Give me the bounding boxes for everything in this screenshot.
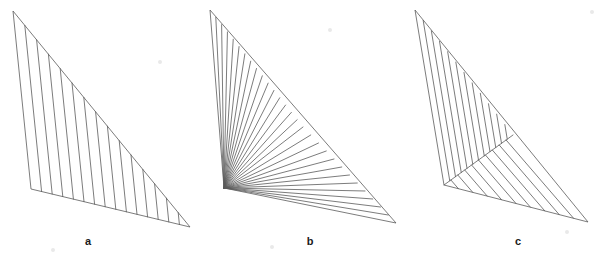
region-b-upper-hatch-ray-13	[224, 105, 286, 188]
triangle-c-outline	[415, 10, 588, 222]
figure-container: abc	[0, 0, 601, 257]
region-c-lower-hatch-line-2	[458, 175, 473, 192]
region-c-lower-hatch-line-6	[485, 155, 530, 207]
region-a-vertical-hatch-line-13	[166, 198, 168, 222]
region-b-lower-hatch-ray-4	[224, 159, 334, 188]
region-c-lower-hatch-line-9	[506, 140, 573, 218]
region-a-vertical-hatch-line-7	[96, 112, 106, 207]
region-a-vertical-hatch-line-10	[131, 155, 137, 214]
region-b-lower-hatch-ray-7	[224, 183, 357, 188]
divider-b	[224, 127, 303, 188]
region-b-upper-hatch-ray-15	[224, 120, 297, 188]
region-c-upper-hatch-line-11	[505, 125, 507, 140]
region-a-vertical-hatch-line-2	[37, 40, 53, 194]
region-a-vertical-hatch-line-1	[25, 25, 42, 191]
region-c-upper-hatch-line-1	[423, 20, 450, 180]
triangle-b-outline	[210, 10, 396, 223]
region-a-vertical-hatch-line-4	[60, 69, 73, 200]
region-a-vertical-hatch-line-12	[155, 184, 159, 220]
region-a-vertical-hatch-line-8	[107, 126, 115, 209]
triangle-hatching-diagram	[0, 0, 601, 257]
region-c-lower-hatch-line-4	[472, 165, 502, 200]
figure-label-b: b	[307, 236, 314, 247]
region-c-lower-hatch-line-5	[479, 160, 517, 204]
region-c-upper-hatch-line-3	[440, 41, 462, 172]
triangle-a-outline	[13, 11, 190, 227]
region-c-upper-hatch-line-7	[472, 83, 484, 156]
region-a-vertical-hatch-line-11	[143, 169, 148, 216]
region-b-upper-hatch-ray-10	[224, 83, 268, 188]
region-b-lower-hatch-ray-11	[224, 188, 388, 215]
region-c-upper-hatch-line-10	[497, 114, 502, 143]
region-a-vertical-hatch-line-6	[84, 97, 95, 204]
figure-label-c: c	[515, 236, 521, 247]
region-a-vertical-hatch-line-9	[119, 141, 126, 212]
divider-c	[444, 135, 513, 185]
region-c-upper-hatch-line-9	[489, 104, 496, 148]
region-c-upper-hatch-line-2	[431, 31, 455, 177]
region-c-lower-hatch-line-3	[465, 170, 488, 196]
figure-label-a: a	[85, 236, 91, 247]
region-a-vertical-hatch-line-5	[72, 83, 84, 202]
region-c-lower-hatch-line-8	[499, 145, 559, 215]
